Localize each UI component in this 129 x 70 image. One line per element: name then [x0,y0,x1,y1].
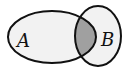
venn-diagram: A B [0,0,129,70]
set-a-label: A [15,30,30,51]
set-b-label: B [100,29,114,50]
